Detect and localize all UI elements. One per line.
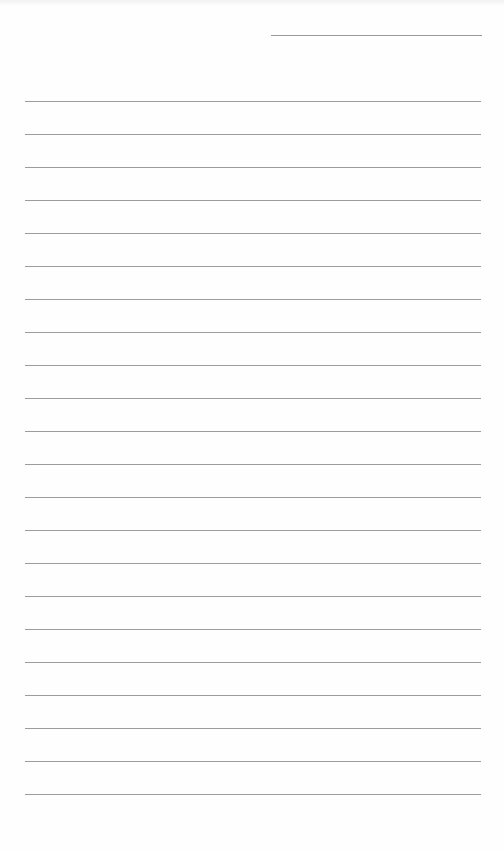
scan-edge [0,0,504,6]
ruled-line [25,200,481,201]
ruled-line [25,497,481,498]
ruled-line [25,332,481,333]
header-name-line [271,35,482,36]
ruled-line [25,761,481,762]
ruled-line [25,662,481,663]
ruled-line [25,134,481,135]
lined-paper-page [0,0,504,851]
ruled-line [25,563,481,564]
ruled-line [25,728,481,729]
ruled-line [25,695,481,696]
ruled-line [25,233,481,234]
ruled-line [25,101,481,102]
ruled-line [25,794,481,795]
ruled-line [25,266,481,267]
ruled-line [25,464,481,465]
ruled-line [25,299,481,300]
ruled-line [25,629,481,630]
ruled-line [25,167,481,168]
ruled-line [25,530,481,531]
ruled-line [25,596,481,597]
ruled-line [25,431,481,432]
ruled-line [25,398,481,399]
ruled-line [25,365,481,366]
